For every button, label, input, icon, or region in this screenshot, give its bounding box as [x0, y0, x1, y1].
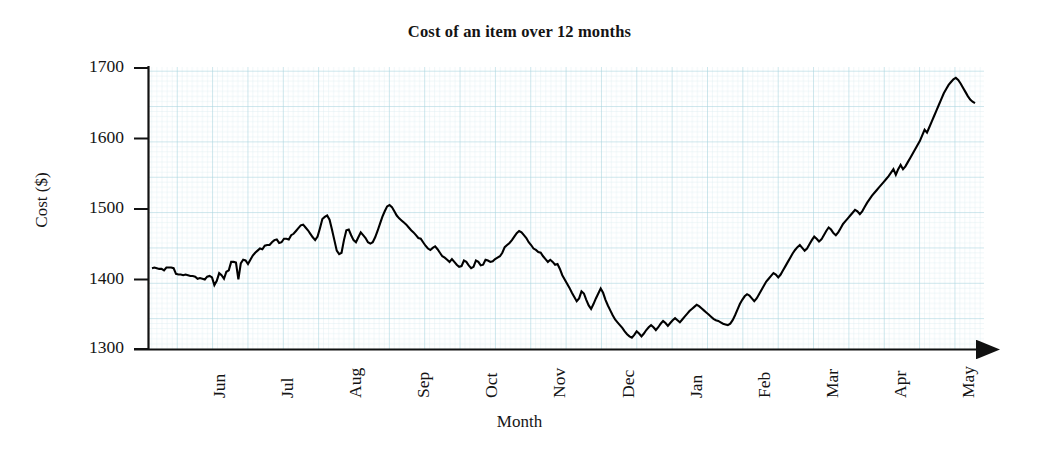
y-tick-label-1300: 1300: [62, 339, 124, 357]
y-tick-label-1400: 1400: [62, 270, 124, 288]
x-tick-label-mar: Mar: [824, 369, 842, 398]
y-tick-label-1700: 1700: [62, 58, 124, 76]
x-tick-label-jul: Jul: [279, 378, 297, 398]
x-tick-label-feb: Feb: [756, 372, 774, 398]
x-tick-label-jan: Jan: [688, 375, 706, 398]
x-tick-label-sep: Sep: [415, 372, 433, 398]
y-tick-label-1600: 1600: [62, 129, 124, 147]
x-tick-label-jun: Jun: [211, 374, 229, 398]
plot-area: [0, 0, 1039, 455]
x-tick-label-oct: Oct: [483, 373, 501, 398]
x-tick-label-may: May: [960, 366, 978, 398]
x-tick-label-apr: Apr: [892, 371, 910, 398]
x-tick-label-aug: Aug: [347, 368, 365, 398]
grid-background: [148, 67, 984, 349]
y-tick-label-1500: 1500: [62, 199, 124, 217]
chart-figure: Cost of an item over 12 months Cost ($) …: [0, 0, 1039, 455]
x-tick-label-nov: Nov: [551, 368, 569, 398]
x-tick-label-dec: Dec: [620, 370, 638, 398]
y-tick-marks: [134, 68, 149, 349]
